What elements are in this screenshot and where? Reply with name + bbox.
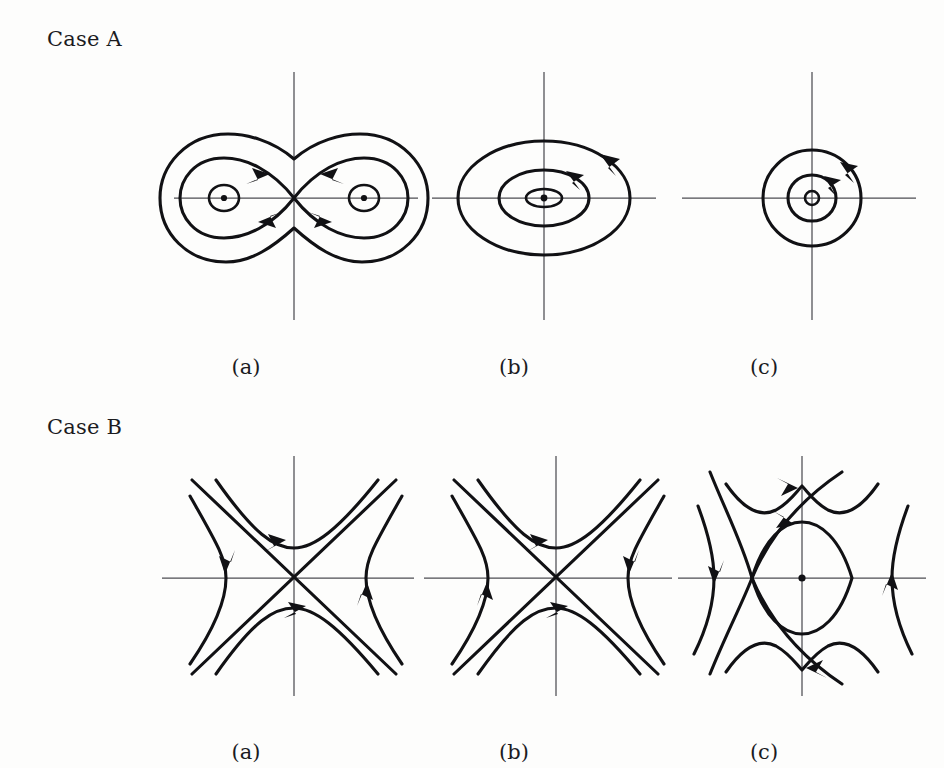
caption-case-a-b: (b) — [484, 355, 544, 379]
upper-branch — [216, 480, 378, 548]
arrow-right-outer-branch — [882, 572, 898, 596]
upper-branch — [478, 480, 640, 548]
caption-case-b-c: (c) — [734, 740, 794, 764]
centre-dot — [541, 195, 548, 202]
separatrix-diagonal-a — [710, 472, 842, 674]
lower-branch — [478, 608, 640, 674]
arrow-right-lobe-bottom — [308, 212, 332, 228]
arrow-outer-ellipse — [600, 154, 620, 176]
left-centre-dot — [221, 195, 227, 201]
caption-case-b-b: (b) — [484, 740, 544, 764]
caption-case-b-a: (a) — [216, 740, 276, 764]
arrow-right-branch — [623, 550, 639, 574]
right-centre-dot — [361, 195, 367, 201]
caption-case-a-a: (a) — [216, 355, 276, 379]
axes-case-b-a — [162, 456, 414, 696]
axes-case-b-b — [424, 456, 672, 696]
phase-portrait-figure: Case A — [0, 0, 944, 768]
right-branch — [628, 496, 664, 664]
left-outer-branch — [694, 506, 714, 654]
panel-case-a-c — [664, 58, 934, 338]
lower-branch — [216, 608, 378, 674]
right-branch — [366, 496, 402, 664]
left-branch — [190, 496, 226, 664]
caption-case-a-c: (c) — [734, 355, 794, 379]
panel-case-a-b — [414, 58, 674, 338]
arrow-left-outer-branch — [708, 560, 724, 584]
panel-case-a-a — [146, 58, 446, 338]
panel-case-b-b — [414, 448, 684, 698]
axes-case-a-c — [682, 72, 916, 320]
case-a-label: Case A — [47, 27, 122, 51]
panel-case-b-a — [146, 448, 446, 698]
left-branch — [452, 496, 488, 664]
right-outer-branch — [892, 506, 912, 654]
centre-dot — [798, 574, 805, 581]
case-b-label: Case B — [47, 415, 122, 439]
panel-case-b-c — [664, 448, 944, 698]
